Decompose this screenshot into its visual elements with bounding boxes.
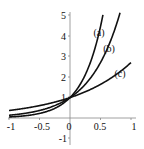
x-tick-label: 0 bbox=[67, 121, 72, 132]
x-tick-label: -1 bbox=[7, 121, 15, 132]
y-tick-label: -1 bbox=[59, 133, 67, 144]
exponential-chart: 5 4 3 2 1 -1 -1 -0.5 0 0.5 1 (a) (b) (c) bbox=[0, 0, 144, 149]
y-tick-label: 2 bbox=[61, 72, 66, 83]
y-tick-label: 3 bbox=[61, 51, 66, 62]
y-tick-label: 5 bbox=[61, 10, 66, 21]
curve-label-b: (b) bbox=[103, 43, 115, 55]
curve-label-a: (a) bbox=[93, 27, 104, 39]
curve-label-c: (c) bbox=[114, 68, 125, 80]
x-tick-label: 0.5 bbox=[94, 121, 107, 132]
x-tick-label: -0.5 bbox=[34, 121, 50, 132]
y-tick-label: 4 bbox=[61, 31, 66, 42]
x-tick-label: 1 bbox=[132, 121, 137, 132]
